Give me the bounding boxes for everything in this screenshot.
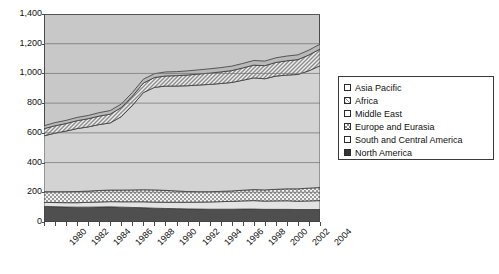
- legend-swatch-icon: [344, 149, 351, 156]
- x-tick-label: 1998: [267, 227, 288, 248]
- legend-label: Europe and Eurasia: [355, 122, 435, 132]
- x-tick-mark: [110, 222, 111, 226]
- legend: Asia PacificAfricaMiddle EastEurope and …: [338, 76, 494, 160]
- legend-swatch-icon: [344, 123, 351, 130]
- legend-swatch-icon: [344, 136, 351, 143]
- legend-item[interactable]: Africa: [344, 94, 488, 107]
- legend-label: Middle East: [355, 109, 402, 119]
- x-tick-label: 1980: [68, 227, 89, 248]
- x-tick-mark: [199, 222, 200, 226]
- x-tick-mark: [121, 222, 122, 226]
- legend-label: Asia Pacific: [355, 83, 402, 93]
- x-tick-mark: [309, 222, 310, 226]
- x-tick-mark: [99, 222, 100, 226]
- legend-label: North America: [355, 148, 412, 158]
- x-tick-mark: [165, 222, 166, 226]
- x-tick-label: 1982: [90, 227, 111, 248]
- x-tick-mark: [320, 222, 321, 226]
- x-tick-mark: [210, 222, 211, 226]
- x-tick-mark: [55, 222, 56, 226]
- x-tick-label: 1992: [200, 227, 221, 248]
- x-tick-mark: [66, 222, 67, 226]
- x-tick-mark: [132, 222, 133, 226]
- x-tick-mark: [276, 222, 277, 226]
- x-tick-label: 1990: [178, 227, 199, 248]
- x-tick-mark: [188, 222, 189, 226]
- legend-item[interactable]: Middle East: [344, 107, 488, 120]
- x-tick-mark: [154, 222, 155, 226]
- legend-item[interactable]: North America: [344, 146, 488, 159]
- legend-swatch-icon: [344, 97, 351, 104]
- x-tick-mark: [265, 222, 266, 226]
- legend-item[interactable]: Europe and Eurasia: [344, 120, 488, 133]
- legend-swatch-icon: [344, 84, 351, 91]
- legend-label: Africa: [355, 96, 378, 106]
- x-tick-mark: [298, 222, 299, 226]
- x-tick-label: 2002: [311, 227, 332, 248]
- x-tick-label: 2004: [333, 227, 354, 248]
- x-tick-mark: [232, 222, 233, 226]
- x-tick-mark: [143, 222, 144, 226]
- x-tick-label: 1996: [245, 227, 266, 248]
- x-tick-label: 2000: [289, 227, 310, 248]
- legend-item[interactable]: Asia Pacific: [344, 81, 488, 94]
- x-tick-mark: [254, 222, 255, 226]
- x-tick-mark: [243, 222, 244, 226]
- legend-item[interactable]: South and Central America: [344, 133, 488, 146]
- x-tick-mark: [88, 222, 89, 226]
- x-tick-label: 1984: [112, 227, 133, 248]
- stacked-area-chart: 02004006008001,0001,2001,400 19801982198…: [0, 0, 499, 274]
- x-tick-mark: [221, 222, 222, 226]
- x-tick-mark: [177, 222, 178, 226]
- x-tick-label: 1994: [222, 227, 243, 248]
- x-tick-mark: [287, 222, 288, 226]
- legend-label: South and Central America: [355, 135, 463, 145]
- x-tick-label: 1986: [134, 227, 155, 248]
- x-tick-mark: [44, 222, 45, 226]
- x-tick-mark: [77, 222, 78, 226]
- legend-swatch-icon: [344, 110, 351, 117]
- x-tick-label: 1988: [156, 227, 177, 248]
